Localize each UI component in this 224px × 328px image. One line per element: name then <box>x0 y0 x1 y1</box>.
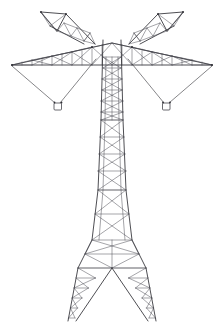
drawing-canvas: Electricity Pylon high-voltage lattice t… <box>0 0 224 328</box>
left-vstring-node-a <box>54 102 56 104</box>
cross-arm-right-inner-node <box>131 46 133 48</box>
right-insulator-ring <box>163 103 171 110</box>
transmission-tower-illustration <box>0 0 224 328</box>
cross-arm-left-inner-node <box>91 46 93 48</box>
left-insulator-ring <box>54 103 62 110</box>
left-peak-apex-node <box>40 11 42 13</box>
left-peak-base-node <box>65 13 67 15</box>
background <box>0 0 224 328</box>
right-peak-apex-node <box>182 11 184 13</box>
right-peak-base-node <box>157 13 159 15</box>
right-vstring-node-b <box>169 102 171 104</box>
left-vstring-node-b <box>61 102 63 104</box>
right-vstring-node-a <box>162 102 164 104</box>
